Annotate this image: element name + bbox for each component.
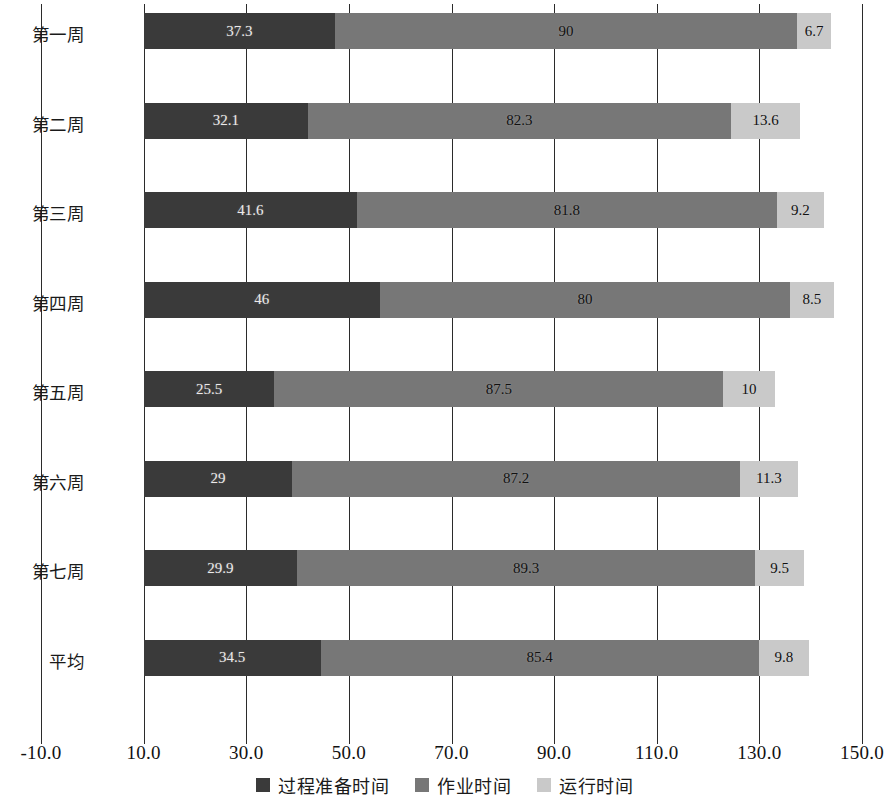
bar-row-3: 41.681.89.2 [144,192,824,228]
x-tick-label-50.0: 50.0 [332,742,366,764]
x-tick-label-70.0: 70.0 [434,742,468,764]
x-tick-label--10.0: -10.0 [20,742,61,764]
bar-segment-作业时间-row-8: 85.4 [321,640,759,676]
x-tick-label-10.0: 10.0 [126,742,160,764]
bar-value-label: 29.9 [207,560,233,577]
chart-legend: 过程准备时间作业时间运行时间 [0,772,889,798]
x-tick-label-110.0: 110.0 [635,742,679,764]
bar-value-label: 13.6 [752,112,778,129]
bar-value-label: 89.3 [513,560,539,577]
x-tick-label-30.0: 30.0 [229,742,263,764]
bar-segment-运行时间-row-7: 9.5 [755,550,804,586]
bar-segment-运行时间-row-1: 6.7 [797,13,831,49]
category-label-5: 第五周 [0,379,84,404]
bar-value-label: 37.3 [226,23,252,40]
bar-value-label: 82.3 [506,112,532,129]
x-tick-90.0 [554,718,555,744]
bar-value-label: 11.3 [756,470,782,487]
bar-segment-运行时间-row-8: 9.8 [759,640,809,676]
category-label-4: 第四周 [0,290,84,315]
x-tick--10.0 [41,718,42,744]
legend-item-过程准备时间[interactable]: 过程准备时间 [256,772,389,798]
bar-segment-过程准备时间-row-5: 25.5 [144,371,275,407]
x-tick-150.0 [862,718,863,744]
plot-area: 第一周37.3906.7第二周32.182.313.6第三周41.681.89.… [0,0,889,718]
bar-segment-运行时间-row-4: 8.5 [790,282,834,318]
legend-label: 作业时间 [437,772,511,798]
bar-segment-过程准备时间-row-2: 32.1 [144,103,309,139]
bar-value-label: 9.2 [791,202,810,219]
bar-segment-作业时间-row-3: 81.8 [357,192,777,228]
bar-row-7: 29.989.39.5 [144,550,804,586]
bar-value-label: 85.4 [527,649,553,666]
bar-segment-过程准备时间-row-6: 29 [144,461,293,497]
legend-swatch-icon-3 [537,778,551,792]
bar-segment-作业时间-row-1: 90 [335,13,797,49]
gridline-150.0 [862,4,863,718]
bar-value-label: 80 [577,291,592,308]
bar-row-8: 34.585.49.8 [144,640,810,676]
bar-segment-作业时间-row-5: 87.5 [274,371,723,407]
category-label-6: 第六周 [0,469,84,494]
bar-row-2: 32.182.313.6 [144,103,801,139]
legend-item-运行时间[interactable]: 运行时间 [537,772,633,798]
bar-row-1: 37.3906.7 [144,13,832,49]
bar-segment-过程准备时间-row-4: 46 [144,282,380,318]
category-label-3: 第三周 [0,200,84,225]
bar-value-label: 87.5 [486,381,512,398]
bar-segment-过程准备时间-row-3: 41.6 [144,192,357,228]
bar-segment-运行时间-row-5: 10 [723,371,774,407]
stacked-bar-chart: 第一周37.3906.7第二周32.182.313.6第三周41.681.89.… [0,0,889,802]
x-tick-30.0 [246,718,247,744]
bar-segment-运行时间-row-2: 13.6 [731,103,801,139]
legend-item-作业时间[interactable]: 作业时间 [415,772,511,798]
bar-value-label: 34.5 [219,649,245,666]
bar-segment-作业时间-row-2: 82.3 [308,103,730,139]
category-label-8: 平均 [0,648,84,673]
bar-value-label: 9.8 [775,649,794,666]
bar-value-label: 9.5 [770,560,789,577]
bar-segment-过程准备时间-row-8: 34.5 [144,640,321,676]
bar-segment-运行时间-row-6: 11.3 [740,461,798,497]
legend-label: 过程准备时间 [278,772,389,798]
legend-label: 运行时间 [559,772,633,798]
bar-value-label: 41.6 [237,202,263,219]
legend-swatch-icon-2 [415,778,429,792]
x-tick-label-130.0: 130.0 [737,742,781,764]
bar-segment-作业时间-row-6: 87.2 [292,461,739,497]
bar-segment-运行时间-row-3: 9.2 [777,192,824,228]
category-label-2: 第二周 [0,111,84,136]
bar-value-label: 81.8 [554,202,580,219]
bar-segment-过程准备时间-row-7: 29.9 [144,550,297,586]
bar-value-label: 8.5 [803,291,822,308]
bar-segment-作业时间-row-7: 89.3 [297,550,755,586]
bar-value-label: 32.1 [213,112,239,129]
bar-value-label: 6.7 [805,23,824,40]
category-label-1: 第一周 [0,21,84,46]
bar-value-label: 46 [254,291,269,308]
bar-value-label: 87.2 [503,470,529,487]
x-tick-130.0 [759,718,760,744]
x-tick-110.0 [657,718,658,744]
category-label-7: 第七周 [0,558,84,583]
bar-value-label: 90 [558,23,573,40]
bar-row-4: 46808.5 [144,282,834,318]
x-tick-50.0 [349,718,350,744]
x-tick-70.0 [452,718,453,744]
bar-segment-作业时间-row-4: 80 [380,282,791,318]
bar-value-label: 29 [211,470,226,487]
bar-value-label: 10 [742,381,757,398]
legend-swatch-icon-1 [256,778,270,792]
x-tick-label-90.0: 90.0 [537,742,571,764]
bar-row-5: 25.587.510 [144,371,775,407]
bar-value-label: 25.5 [196,381,222,398]
bar-row-6: 2987.211.3 [144,461,798,497]
bar-segment-过程准备时间-row-1: 37.3 [144,13,335,49]
x-tick-10.0 [144,718,145,744]
x-tick-label-150.0: 150.0 [840,742,884,764]
